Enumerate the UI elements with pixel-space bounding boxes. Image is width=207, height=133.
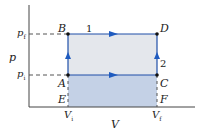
tick-pf: pf [17,28,26,40]
label-C: C [160,78,168,89]
tick-vf: Vf [152,110,161,122]
label-A: A [58,78,66,89]
upper-region [68,34,157,75]
tick-vi: Vi [64,110,73,122]
label-B: B [58,23,66,34]
path-1-label: 1 [86,24,92,34]
y-axis-label: p [9,52,16,63]
label-D: D [160,23,169,34]
point-C [155,73,159,77]
tick-pi: pi [17,69,25,81]
label-F: F [160,94,168,105]
label-E: E [58,94,66,105]
x-axis-label: V [111,119,119,130]
point-B [66,32,70,36]
point-D [155,32,159,36]
lower-region [68,75,157,107]
path-2-label: 2 [160,59,166,69]
pv-diagram-canvas [0,0,207,133]
point-A [66,73,70,77]
